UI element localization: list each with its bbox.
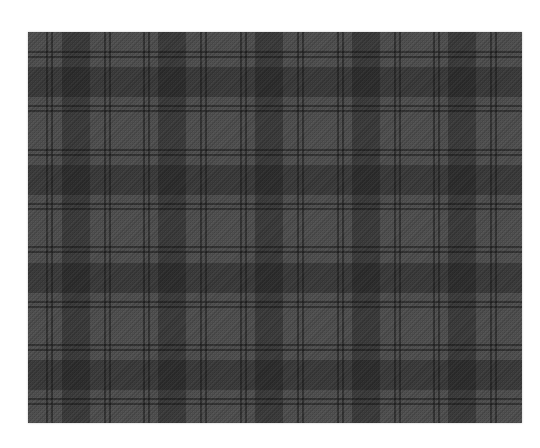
horizontal-thin-line — [28, 349, 522, 351]
horizontal-dark-band — [28, 263, 522, 293]
horizontal-thin-line — [28, 149, 522, 151]
tartan-fabric-swatch — [28, 32, 522, 423]
horizontal-thin-line — [28, 110, 522, 112]
horizontal-thin-line — [28, 301, 522, 303]
horizontal-thin-line — [28, 398, 522, 400]
horizontal-thin-line — [28, 208, 522, 210]
horizontal-dark-band — [28, 360, 522, 390]
horizontal-dark-band — [28, 67, 522, 97]
horizontal-dark-band — [28, 165, 522, 195]
horizontal-thin-line — [28, 306, 522, 308]
horizontal-thin-line — [28, 154, 522, 156]
horizontal-thin-line — [28, 105, 522, 107]
horizontal-thin-line — [28, 344, 522, 346]
horizontal-thin-line — [28, 56, 522, 58]
horizontal-thin-line — [28, 246, 522, 248]
horizontal-thin-line — [28, 403, 522, 405]
horizontal-thin-line — [28, 51, 522, 53]
horizontal-thin-line — [28, 251, 522, 253]
horizontal-thin-line — [28, 203, 522, 205]
